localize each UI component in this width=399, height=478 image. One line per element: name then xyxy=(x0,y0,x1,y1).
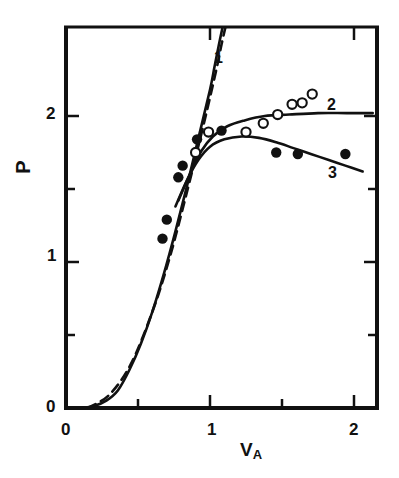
y-tick-label-1: 1 xyxy=(47,247,56,264)
open-circle-marker xyxy=(273,110,282,119)
open-circle-marker xyxy=(287,100,296,109)
open-circle-marker xyxy=(191,148,200,157)
open-circle-marker xyxy=(204,127,213,136)
open-circle-marker xyxy=(308,90,317,99)
curve-label-2: 2 xyxy=(327,97,336,113)
filled-circle-marker xyxy=(271,147,281,157)
x-axis-title: VA xyxy=(240,440,262,461)
filled-circle-marker xyxy=(293,149,303,159)
filled-circle-marker xyxy=(340,149,350,159)
curve-label-1: 1 xyxy=(214,50,223,66)
open-circle-marker xyxy=(241,127,250,136)
x-axis-title-main: V xyxy=(240,439,253,460)
open-circle-marker xyxy=(298,98,307,107)
x-tick-label-0: 0 xyxy=(61,421,70,438)
filled-circle-marker xyxy=(162,214,172,224)
x-tick-label-1: 1 xyxy=(207,421,216,438)
filled-circle-marker xyxy=(157,233,167,243)
y-tick-label-0: 0 xyxy=(46,398,55,415)
filled-circle-marker xyxy=(173,172,183,182)
curve-label-3: 3 xyxy=(328,165,337,181)
x-axis-title-subscript: A xyxy=(253,447,262,462)
y-axis-title: P xyxy=(13,160,33,173)
figure-container: 2 1 0 0 1 2 P VA 1 2 3 xyxy=(0,0,399,478)
x-tick-label-2: 2 xyxy=(349,421,358,438)
plot-canvas xyxy=(0,0,399,478)
filled-circle-marker xyxy=(177,160,187,170)
filled-circle-marker xyxy=(192,134,202,144)
filled-circle-marker xyxy=(216,125,226,135)
open-circle-marker xyxy=(259,119,268,128)
y-tick-label-2: 2 xyxy=(46,105,55,122)
